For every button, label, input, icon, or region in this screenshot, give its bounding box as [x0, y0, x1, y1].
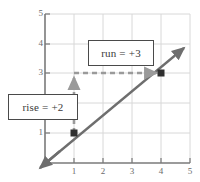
- y-tick-label-5: 5: [31, 8, 43, 18]
- x-tick-label-4: 4: [154, 166, 168, 176]
- x-tick-label-5: 5: [183, 166, 197, 176]
- x-tick-label-3: 3: [125, 166, 139, 176]
- y-tick-label-1: 1: [31, 127, 43, 137]
- run-annotation-box: run = +3: [88, 40, 154, 66]
- grid-lines: [45, 14, 190, 163]
- y-tick-label-3: 3: [31, 67, 43, 77]
- axis-lines: [45, 14, 190, 163]
- point-marker-1-1: [71, 130, 78, 137]
- data-line-left-arrow: [40, 151, 60, 168]
- rise-annotation-box: rise = +2: [8, 94, 78, 120]
- axis-ticks: [45, 14, 190, 163]
- coordinate-plot: [0, 0, 200, 182]
- y-tick-label-4: 4: [31, 38, 43, 48]
- point-marker-4-3: [158, 70, 165, 77]
- x-tick-label-1: 1: [67, 166, 81, 176]
- chart-canvas: 1 2 3 4 5 1 3 4 5 rise = +2 run = +3: [0, 0, 200, 182]
- x-tick-label-2: 2: [96, 166, 110, 176]
